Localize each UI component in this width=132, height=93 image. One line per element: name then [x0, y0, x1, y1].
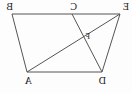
mirrored-artwork-layer: ECBDAF [0, 0, 132, 93]
vertex-label-f: F [86, 33, 90, 41]
segment-ea [27, 14, 120, 72]
vertex-label-b: B [6, 2, 13, 12]
vertex-label-e: E [123, 2, 129, 12]
segment-de [102, 14, 120, 72]
vertex-label-d: D [99, 76, 106, 86]
vertex-label-c: C [70, 2, 77, 12]
segment-ba [12, 14, 27, 72]
geometry-canvas [0, 0, 132, 93]
vertex-label-a: A [25, 76, 32, 86]
segment-cd [72, 14, 102, 72]
geometry-figure: ECBDAF [0, 0, 132, 93]
